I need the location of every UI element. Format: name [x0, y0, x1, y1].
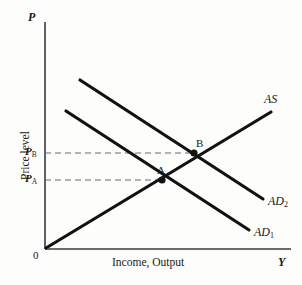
ad2-curve-label: AD2 [268, 195, 288, 207]
ad2-curve-label-base: AD [268, 194, 284, 208]
price-tick-pa: PA [25, 173, 37, 184]
point-a-marker [158, 176, 165, 183]
ad1-curve-label: AD1 [254, 226, 274, 238]
ad1-curve-label-sub: 1 [270, 231, 274, 240]
x-axis-symbol: Y [278, 256, 285, 268]
ad-as-diagram: P Y 0 Price level Income, Output PB PA A… [0, 0, 302, 285]
point-a-label: A [157, 165, 165, 176]
ad2-curve-label-sub: 2 [284, 200, 288, 209]
point-b-marker [190, 149, 197, 156]
price-tick-pa-sub: A [32, 177, 37, 186]
price-tick-pb-base: P [25, 145, 32, 157]
y-axis-symbol: P [28, 11, 35, 23]
diagram-canvas [0, 0, 302, 285]
x-axis-title: Income, Output [112, 257, 184, 269]
price-tick-pb-sub: B [32, 150, 37, 159]
price-tick-pb: PB [25, 146, 37, 157]
origin-label: 0 [33, 250, 39, 261]
ad1-curve-label-base: AD [254, 225, 270, 239]
point-b-label: B [196, 138, 203, 149]
price-tick-pa-base: P [25, 172, 32, 184]
as-curve-label-base: AS [264, 92, 277, 106]
as-curve-label: AS [264, 93, 277, 105]
